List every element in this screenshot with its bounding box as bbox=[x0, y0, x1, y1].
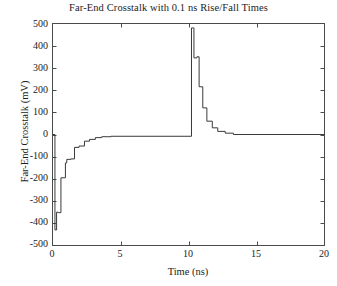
data-line-group bbox=[53, 28, 325, 230]
chart-figure: Far-End Crosstalk with 0.1 ns Rise/Fall … bbox=[0, 0, 337, 286]
plot-area bbox=[0, 0, 337, 286]
